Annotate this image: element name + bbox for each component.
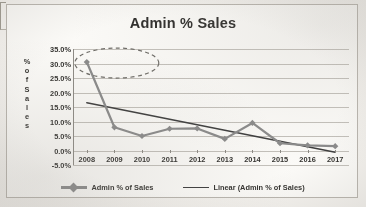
x-axis-tick: [308, 150, 309, 153]
x-axis-tick: [225, 150, 226, 153]
x-axis-tick: [335, 150, 336, 153]
x-axis-tick: [87, 150, 88, 153]
chart-series-layer: [73, 49, 349, 165]
data-point-marker: [332, 143, 338, 149]
x-axis-tick: [280, 150, 281, 153]
y-axis-tick-labels: 35.0%30.0%25.0%20.0%15.0%10.0%5.0%0.0%-5…: [23, 49, 71, 165]
x-axis-tick-label: 2017: [318, 155, 352, 164]
y-axis-tick-label: 0.0%: [31, 146, 71, 155]
x-axis-tick: [114, 150, 115, 153]
data-point-marker: [194, 125, 200, 131]
trendline-swatch: [183, 187, 209, 189]
series-marker-swatch: [61, 186, 87, 189]
legend-item[interactable]: Linear (Admin % of Sales): [183, 183, 304, 192]
x-axis-tick-labels: 2008200920102011201220132014201520162017: [73, 155, 349, 167]
chart-frame: Admin % Sales %ofSales 35.0%30.0%25.0%20…: [6, 4, 358, 198]
chart-legend: Admin % of SalesLinear (Admin % of Sales…: [7, 183, 359, 192]
chart-title: Admin % Sales: [7, 15, 359, 31]
x-axis-tick: [170, 150, 171, 153]
data-point-marker: [167, 126, 173, 132]
y-axis-tick-label: 15.0%: [31, 103, 71, 112]
data-point-marker: [84, 59, 90, 65]
data-point-markers: [84, 59, 339, 149]
legend-item[interactable]: Admin % of Sales: [61, 183, 153, 192]
data-series-line: [87, 62, 335, 146]
x-axis-tick: [252, 150, 253, 153]
legend-label: Admin % of Sales: [91, 183, 153, 192]
data-point-marker: [139, 133, 145, 139]
y-axis-tick-label: -5.0%: [31, 161, 71, 170]
y-axis-tick-label: 20.0%: [31, 88, 71, 97]
data-point-marker: [111, 124, 117, 130]
y-axis-tick-label: 25.0%: [31, 74, 71, 83]
legend-label: Linear (Admin % of Sales): [213, 183, 304, 192]
y-axis-tick-label: 5.0%: [31, 132, 71, 141]
x-axis-ticks: [73, 150, 349, 154]
x-axis-tick: [142, 150, 143, 153]
y-axis-tick-label: 35.0%: [31, 45, 71, 54]
y-axis-tick-label: 10.0%: [31, 117, 71, 126]
plot-area: [73, 49, 349, 165]
x-axis-tick: [197, 150, 198, 153]
y-axis-tick-label: 30.0%: [31, 59, 71, 68]
